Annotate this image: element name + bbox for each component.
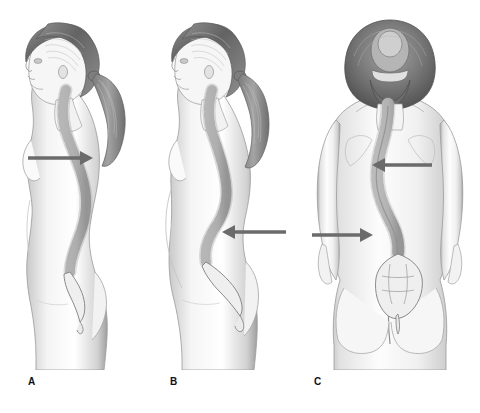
panel-b-illustration	[150, 0, 310, 370]
panel-b-lordosis	[150, 0, 310, 370]
spine-curvature-figure: A B C	[0, 0, 480, 413]
panel-label-c: C	[314, 376, 322, 387]
head-c	[345, 20, 435, 110]
panel-c-illustration	[300, 0, 480, 370]
arrow-lumbar-b	[222, 225, 286, 239]
panel-a-illustration	[0, 0, 160, 370]
panel-label-b: B	[170, 376, 178, 387]
panel-a-kyphosis	[0, 0, 160, 370]
panel-c-scoliosis	[300, 0, 480, 370]
panel-label-a: A	[28, 376, 36, 387]
